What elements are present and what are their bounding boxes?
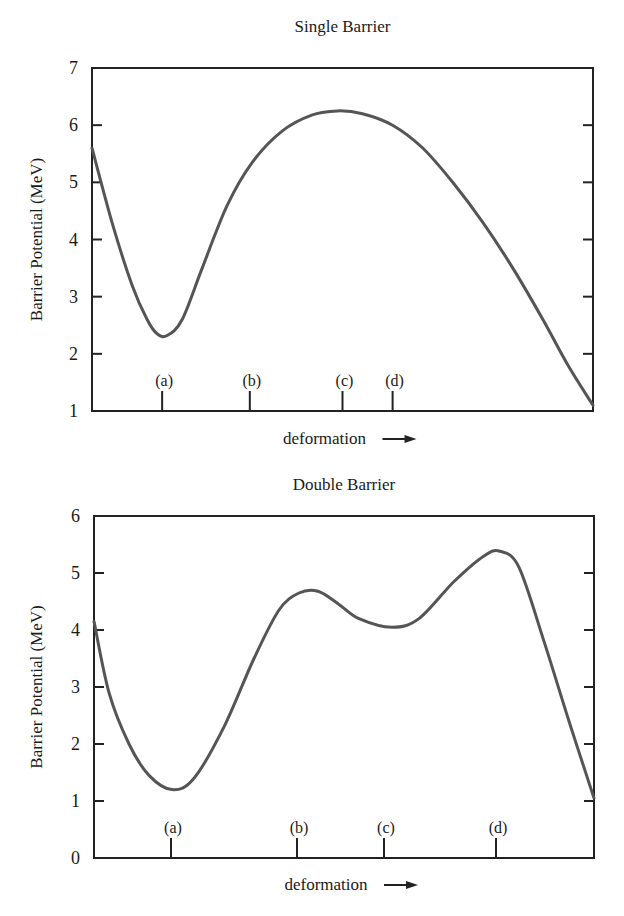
- deformation-marker-label: (b): [242, 372, 261, 390]
- deformation-marker-label: (b): [290, 819, 309, 837]
- y-tick-label: 4: [71, 620, 80, 640]
- y-tick-label: 1: [69, 401, 78, 421]
- arrow-right-icon: [383, 435, 417, 443]
- deformation-marker-label: (d): [489, 819, 508, 837]
- chart-2: Double Barrier0123456Barrier Potential (…: [27, 475, 594, 894]
- deformation-marker-label: (c): [377, 819, 395, 837]
- y-tick-label: 0: [71, 848, 80, 868]
- y-tick-label: 3: [69, 287, 78, 307]
- y-tick-label: 2: [69, 344, 78, 364]
- y-axis-label: Barrier Potential (MeV): [27, 605, 46, 768]
- chart-title: Single Barrier: [295, 17, 391, 36]
- y-axis-label: Barrier Potential (MeV): [27, 158, 46, 321]
- potential-curve: [92, 111, 593, 405]
- x-axis-label: deformation: [283, 429, 367, 448]
- deformation-marker-label: (d): [385, 372, 404, 390]
- chart-title: Double Barrier: [293, 475, 396, 494]
- deformation-marker-label: (a): [155, 372, 173, 390]
- plot-frame: [92, 68, 593, 411]
- y-tick-label: 6: [71, 506, 80, 526]
- y-tick-label: 3: [71, 677, 80, 697]
- x-axis-label: deformation: [284, 875, 368, 894]
- potential-curve: [94, 551, 594, 799]
- chart-1: Single Barrier1234567Barrier Potential (…: [27, 17, 593, 448]
- arrow-right-icon: [384, 881, 418, 889]
- y-tick-label: 6: [69, 115, 78, 135]
- y-tick-label: 2: [71, 734, 80, 754]
- y-tick-label: 7: [69, 58, 78, 78]
- deformation-marker-label: (c): [336, 372, 354, 390]
- figure: Single Barrier1234567Barrier Potential (…: [0, 0, 624, 916]
- deformation-marker-label: (a): [164, 819, 182, 837]
- y-tick-label: 4: [69, 230, 78, 250]
- y-tick-label: 1: [71, 791, 80, 811]
- y-tick-label: 5: [71, 563, 80, 583]
- y-tick-label: 5: [69, 172, 78, 192]
